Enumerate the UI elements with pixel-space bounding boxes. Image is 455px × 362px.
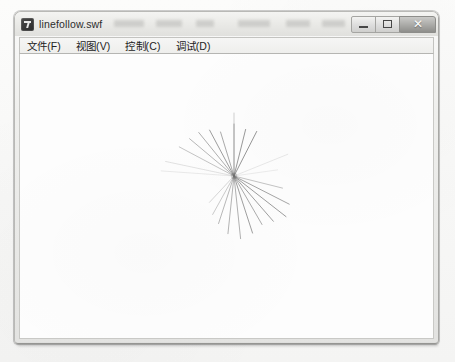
flash-player-icon — [21, 18, 34, 31]
title-bar-smudges — [110, 18, 345, 30]
title-smudge — [286, 20, 310, 27]
starburst-line — [234, 129, 246, 176]
title-smudge — [322, 20, 345, 27]
close-button[interactable]: ✕ — [399, 16, 436, 33]
menu-file[interactable]: 文件(F) — [26, 38, 62, 53]
window-controls: ✕ — [351, 15, 436, 33]
menu-bar: 文件(F) 视图(V) 控制(C) 调试(D) — [19, 37, 434, 54]
window-title: linefollow.swf — [39, 18, 102, 30]
starburst-line — [234, 176, 273, 221]
window-drop-shadow — [18, 344, 438, 347]
menu-control[interactable]: 控制(C) — [124, 38, 161, 53]
starburst-line — [190, 139, 234, 176]
title-smudge — [114, 20, 144, 27]
menu-debug[interactable]: 调试(D) — [175, 38, 212, 53]
title-smudge — [156, 20, 182, 27]
close-icon: ✕ — [413, 18, 423, 30]
flash-stage[interactable] — [20, 54, 433, 338]
title-smudge — [196, 20, 214, 27]
starburst-line — [234, 131, 257, 176]
starburst-line — [234, 154, 288, 176]
flash-player-window: linefollow.swf ✕ 文件(F) 视图(V) 控制(C) 调试(D) — [14, 11, 439, 344]
starburst-drawing — [20, 54, 433, 339]
minimize-icon — [359, 26, 368, 28]
title-smudge — [238, 20, 270, 27]
maximize-button[interactable] — [375, 16, 400, 33]
maximize-icon — [383, 20, 392, 28]
starburst-line — [234, 170, 278, 176]
title-bar[interactable]: linefollow.swf ✕ — [15, 12, 438, 36]
menu-view[interactable]: 视图(V) — [75, 38, 112, 53]
flash-stage-container[interactable] — [19, 54, 434, 339]
starburst-origin — [231, 173, 237, 179]
minimize-button[interactable] — [351, 16, 376, 33]
